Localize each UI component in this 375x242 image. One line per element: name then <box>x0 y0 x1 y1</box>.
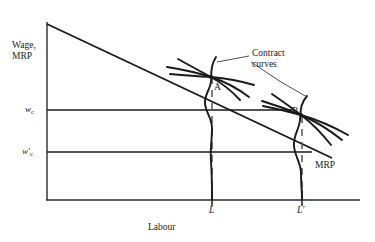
wc-prime-subscript: c <box>30 150 33 157</box>
point-label-A: A <box>214 82 221 93</box>
contract-curves-line2: curves <box>252 59 285 70</box>
x-tick-label-L-prime: L′ <box>297 205 304 216</box>
x-axis-title: Labour <box>148 222 175 233</box>
mrp-curve-annotation: MRP <box>315 160 335 171</box>
y-axis-title-line2: MRP <box>12 51 36 62</box>
axis-group <box>46 22 360 200</box>
contract-curves-figure: Wage, MRP wc w′c Labour L L′ A B Contrac… <box>0 0 375 242</box>
point-marker-B <box>299 113 303 117</box>
x-tick-label-L: L <box>209 205 214 216</box>
contract-curves-line1: Contract <box>252 48 285 59</box>
contract-curves-annotation: Contract curves <box>252 48 285 69</box>
point-label-B: B <box>292 106 298 117</box>
leader-line-to-contract-curve-L-prime <box>281 82 307 97</box>
y-tick-label-wc-prime: w′c <box>22 146 33 156</box>
y-axis-title-line1: Wage, <box>12 40 36 51</box>
diagram-canvas <box>0 0 375 242</box>
wc-subscript: c <box>31 108 34 115</box>
y-tick-label-wc: wc <box>25 104 34 114</box>
wc-prime-symbol: w′ <box>22 146 30 156</box>
mrp-line <box>47 24 332 158</box>
point-marker-A <box>209 75 213 79</box>
y-axis-title: Wage, MRP <box>12 40 36 61</box>
leader-line-to-contract-curve-L <box>217 56 249 62</box>
